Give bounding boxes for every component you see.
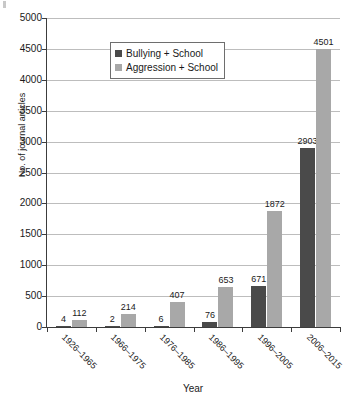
bar-value-label: 4 [61, 315, 66, 324]
bar [218, 287, 233, 327]
y-axis-tick-label: 5000 [2, 13, 42, 23]
x-axis-title: Year [46, 383, 340, 394]
y-axis-tick-label: 1500 [2, 229, 42, 239]
plot-area: 41122214640776653671187229034501 Bullyin… [46, 18, 340, 328]
bar [105, 326, 120, 327]
bar-slot: 1872 [267, 18, 282, 327]
x-label-cell: 1966–1975 [96, 330, 145, 382]
bar-slot: 112 [72, 18, 87, 327]
x-axis-tick-label: 1926–1965 [60, 332, 99, 371]
bar-value-label: 4501 [314, 38, 334, 47]
bar [154, 326, 169, 327]
y-axis-tick-label: 2500 [2, 168, 42, 178]
bar-value-label: 671 [251, 275, 266, 284]
y-axis-tick-label: 1000 [2, 260, 42, 270]
legend-label-bullying: Bullying + School [126, 48, 203, 59]
x-label-cell: 1996–2005 [242, 330, 291, 382]
legend-entry-aggression: Aggression + School [115, 60, 218, 74]
bar-value-label: 2903 [298, 137, 318, 146]
bar-value-label: 214 [121, 303, 136, 312]
bar-value-label: 653 [218, 276, 233, 285]
bar-value-label: 407 [170, 291, 185, 300]
x-axis-tick-label: 2006–2015 [304, 332, 343, 371]
bar [267, 211, 282, 327]
legend-entry-bullying: Bullying + School [115, 46, 218, 60]
x-axis-tick-label: 1996–2005 [256, 332, 295, 371]
x-axis-tick-label: 1986–1995 [207, 332, 246, 371]
bar-value-label: 76 [205, 311, 215, 320]
bar-slot: 4501 [316, 18, 331, 327]
y-axis-tick-label: 500 [2, 291, 42, 301]
bar [170, 302, 185, 327]
x-axis-tick-label: 1976–1985 [158, 332, 197, 371]
bar [121, 314, 136, 327]
bar [316, 49, 331, 327]
legend-swatch-icon-aggression [115, 64, 122, 71]
bar [251, 286, 266, 327]
x-axis-tick-labels: 1926–19651966–19751976–19851986–19951996… [47, 330, 340, 382]
bar [202, 322, 217, 327]
bar-slot: 2903 [300, 18, 315, 327]
x-label-cell: 2006–2015 [291, 330, 340, 382]
bar [72, 320, 87, 327]
bar [300, 148, 315, 327]
legend: Bullying + School Aggression + School [110, 42, 225, 79]
legend-swatch-icon-bullying [115, 50, 122, 57]
legend-label-aggression: Aggression + School [126, 62, 218, 73]
y-axis-tick-labels: 5000450040003500300025002000150010005000 [0, 0, 42, 403]
bar-group: 29034501 [291, 18, 340, 327]
x-tick-mark [340, 327, 341, 332]
bar-slot: 4 [56, 18, 71, 327]
bar-chart: No. of journal articles 5000450040003500… [0, 0, 348, 403]
bar-value-label: 112 [72, 309, 86, 318]
bar-slot: 671 [251, 18, 266, 327]
bar-group: 6711872 [242, 18, 291, 327]
x-label-cell: 1926–1965 [47, 330, 96, 382]
x-axis-tick-label: 1966–1975 [109, 332, 148, 371]
bar-group: 4112 [47, 18, 96, 327]
y-axis-tick-label: 2000 [2, 198, 42, 208]
y-axis-tick-label: 4000 [2, 75, 42, 85]
y-axis-tick-label: 0 [2, 322, 42, 332]
y-axis-tick-label: 3500 [2, 106, 42, 116]
bar [56, 326, 71, 327]
y-axis-tick-label: 4500 [2, 44, 42, 54]
y-axis-tick-label: 3000 [2, 137, 42, 147]
x-label-cell: 1986–1995 [193, 330, 242, 382]
bar-value-label: 2 [110, 315, 115, 324]
x-label-cell: 1976–1985 [145, 330, 194, 382]
bar-value-label: 6 [159, 315, 164, 324]
bar-value-label: 1872 [265, 200, 285, 209]
